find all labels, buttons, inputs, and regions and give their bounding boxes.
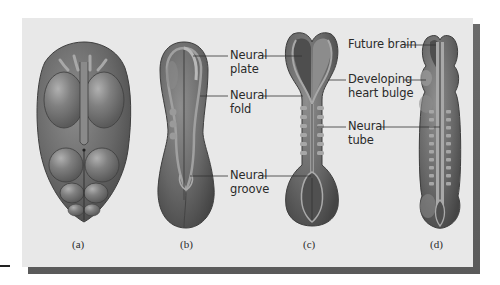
label-line: tube [348, 134, 385, 148]
embryo-a [37, 42, 131, 222]
label-neural-tube: Neural tube [348, 120, 385, 147]
caption-b: (b) [180, 238, 193, 250]
caption-d: (d) [430, 238, 443, 250]
embryo-c [285, 33, 338, 226]
label-future-brain: Future brain [348, 38, 417, 52]
label-line: heart bulge [348, 87, 413, 101]
label-line: Neural [348, 120, 385, 134]
label-line: fold [230, 103, 267, 117]
label-line: Neural [230, 49, 267, 63]
caption-c: (c) [303, 238, 315, 250]
label-neural-fold: Neural fold [230, 89, 267, 116]
embryo-d [419, 36, 461, 229]
label-neural-plate: Neural plate [230, 49, 267, 76]
caption-a: (a) [72, 238, 84, 250]
label-line: Neural [230, 169, 269, 183]
label-line: groove [230, 183, 269, 197]
label-line: Future brain [348, 38, 417, 52]
embryo-b [158, 42, 214, 228]
label-line: Developing [348, 73, 413, 87]
label-neural-groove: Neural groove [230, 169, 269, 196]
label-heart-bulge: Developing heart bulge [348, 73, 413, 100]
label-line: plate [230, 63, 267, 77]
label-line: Neural [230, 89, 267, 103]
